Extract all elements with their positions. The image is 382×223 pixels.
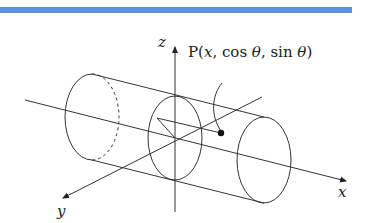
left-end-hidden-arc: [92, 74, 119, 160]
y-axis: [63, 97, 262, 198]
y-axis-label: y: [56, 202, 66, 220]
point-p-label: P(x, cos θ, sin θ): [188, 43, 312, 61]
left-end-front-arc: [65, 74, 92, 160]
cylinder-top-edge: [92, 74, 264, 117]
radius-line: [157, 118, 175, 138]
x-axis: [25, 100, 346, 181]
z-axis-label: z: [157, 33, 166, 51]
x-axis-label: x: [338, 183, 347, 201]
cylinder-diagram: z x y P(x, cos θ, sin θ): [0, 0, 382, 223]
parallel-line-to-point: [157, 118, 221, 133]
point-p-marker: [218, 130, 224, 136]
label-leader-curve: [214, 83, 222, 131]
cylinder-bottom-edge: [92, 160, 264, 203]
